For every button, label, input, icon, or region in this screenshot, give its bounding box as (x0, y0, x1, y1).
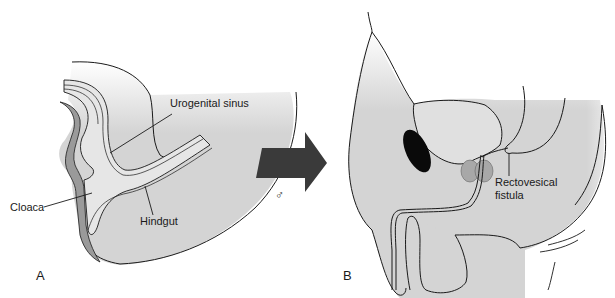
label-urogenital-sinus: Urogenital sinus (170, 97, 249, 109)
diagram-canvas (0, 0, 615, 298)
figure: Urogenital sinus Cloaca Hindgut A ♂ Rect… (0, 0, 615, 298)
panel-letter-b: B (343, 268, 352, 283)
panel-letter-a: A (36, 268, 45, 283)
label-hindgut: Hindgut (140, 215, 178, 227)
male-symbol-icon: ♂ (275, 189, 284, 201)
label-fistula: fistula (495, 189, 524, 201)
panel-b-drawing (349, 12, 615, 298)
label-rectovesical: Rectovesical (495, 176, 557, 188)
label-cloaca: Cloaca (10, 201, 44, 213)
